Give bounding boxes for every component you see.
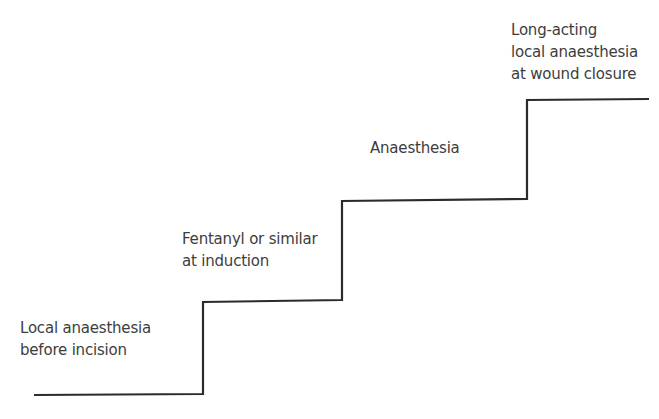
step-2-label: Fentanyl or similar at induction	[182, 228, 318, 272]
step-4-line-2: local anaesthesia	[511, 41, 638, 63]
step-4-label: Long-acting local anaesthesia at wound c…	[511, 19, 638, 85]
step-1-line-2: before incision	[20, 339, 151, 361]
step-4-line-1: Long-acting	[511, 19, 638, 41]
staircase-diagram: Local anaesthesia before incision Fentan…	[0, 0, 659, 419]
step-2-line-1: Fentanyl or similar	[182, 228, 318, 250]
step-1-label: Local anaesthesia before incision	[20, 317, 151, 361]
step-3-line-1: Anaesthesia	[370, 137, 460, 159]
step-2-line-2: at induction	[182, 250, 318, 272]
step-4-line-3: at wound closure	[511, 63, 638, 85]
step-3-label: Anaesthesia	[370, 137, 460, 159]
step-1-line-1: Local anaesthesia	[20, 317, 151, 339]
